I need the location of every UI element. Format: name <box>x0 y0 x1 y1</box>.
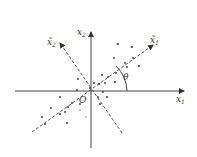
data-point <box>76 89 78 91</box>
data-point <box>77 78 79 80</box>
data-point <box>106 96 108 98</box>
data-point <box>138 65 140 67</box>
data-point <box>67 106 69 108</box>
origin-label: O <box>79 95 87 105</box>
faint-data-point <box>79 109 81 111</box>
data-point <box>41 116 43 118</box>
pca-rotation-diagram: x1 x2 x̃1 x̃2 O θ <box>0 0 197 157</box>
data-point <box>132 57 134 59</box>
x2-label: x2 <box>77 27 86 38</box>
data-point <box>89 87 91 89</box>
data-point <box>104 82 106 84</box>
x2-tilde-label: x̃2 <box>47 37 56 48</box>
data-point <box>126 66 128 68</box>
x1-label: x1 <box>176 94 185 105</box>
data-point <box>97 96 99 98</box>
x1-tilde-label: x̃1 <box>150 35 159 46</box>
theta-label: θ <box>123 72 129 82</box>
data-point <box>117 43 119 45</box>
data-point <box>114 81 116 83</box>
data-point <box>66 122 68 124</box>
data-point <box>131 46 133 48</box>
data-point <box>93 82 95 84</box>
data-point <box>101 74 103 76</box>
data-point <box>124 62 126 64</box>
data-point <box>98 83 100 85</box>
data-point <box>115 72 117 74</box>
data-point <box>113 57 115 59</box>
data-point <box>107 76 109 78</box>
faint-data-point <box>85 116 87 118</box>
data-point <box>64 111 66 113</box>
data-point <box>99 103 101 105</box>
data-point <box>59 96 61 98</box>
data-point <box>102 91 104 93</box>
data-point <box>59 113 61 115</box>
data-point <box>71 102 73 104</box>
data-point <box>44 123 46 125</box>
data-point <box>50 107 52 109</box>
x1-tilde-axis <box>32 45 153 132</box>
